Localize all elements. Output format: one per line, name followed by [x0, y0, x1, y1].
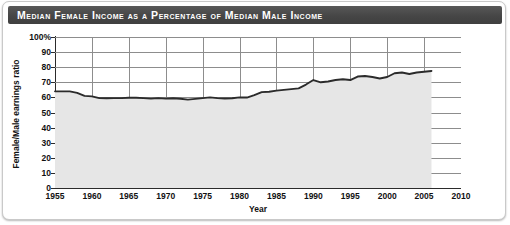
x-tick-label: 1960	[82, 191, 101, 201]
chart-figure: Median Female Income as a Percentage of …	[2, 1, 506, 220]
x-tick-label: 2005	[415, 191, 434, 201]
x-tick-label: 1995	[341, 191, 360, 201]
y-tick-label: 30	[42, 138, 51, 148]
x-tick-label: 1980	[230, 191, 249, 201]
income-ratio-area-series	[55, 37, 461, 188]
y-tick-label: 90	[42, 47, 51, 57]
y-tick-label: 60	[42, 92, 51, 102]
y-tick-label: 80	[42, 62, 51, 72]
y-axis-title: Female/Male earnings ratio	[11, 59, 21, 168]
y-tick-label: 50	[42, 108, 51, 118]
y-tick-label: 40	[42, 123, 51, 133]
x-tick-label: 1990	[304, 191, 323, 201]
x-tick-label: 1965	[119, 191, 138, 201]
y-tick-label: 10	[42, 168, 51, 178]
series-fill	[55, 71, 431, 188]
y-tick-label: 20	[42, 153, 51, 163]
x-tick-label: 1955	[46, 191, 65, 201]
x-axis-title: Year	[249, 204, 267, 214]
x-tick-label: 1970	[156, 191, 175, 201]
x-tick-label: 2010	[452, 191, 471, 201]
y-tick-label: 70	[42, 77, 51, 87]
plot-container: Female/Male earnings ratio Year 01020304…	[3, 2, 506, 220]
y-tick-mark	[51, 188, 55, 189]
x-tick-label: 1985	[267, 191, 286, 201]
plot-area: 0102030405060708090100% 1955196019651970…	[55, 37, 461, 188]
x-tick-label: 2000	[378, 191, 397, 201]
x-tick-label: 1975	[193, 191, 212, 201]
y-tick-label: 100%	[29, 32, 51, 42]
x-axis-line	[55, 188, 461, 189]
